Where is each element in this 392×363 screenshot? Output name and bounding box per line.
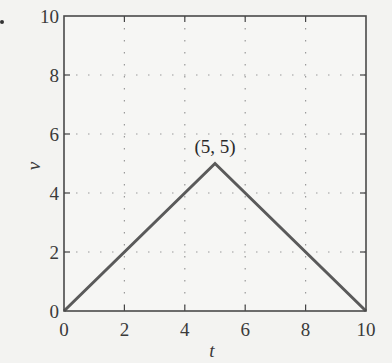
y-tick-label: 0 [50, 301, 60, 322]
y-tick-label: 6 [50, 124, 60, 145]
x-tick-label: 8 [301, 319, 311, 340]
y-tick-label: 4 [50, 183, 60, 204]
x-tick-label: 10 [357, 319, 376, 340]
y-tick-label: 8 [50, 65, 60, 86]
y-tick-label: 10 [40, 6, 59, 27]
x-tick-label: 2 [120, 319, 130, 340]
x-tick-label: 0 [59, 319, 69, 340]
x-tick-label: 6 [240, 319, 250, 340]
y-tick-label: 2 [50, 242, 60, 263]
peak-annotation: (5, 5) [194, 136, 235, 158]
bullet-dot [0, 20, 4, 24]
chart-canvas: (5, 5) 0 2 4 6 8 10 0 2 4 6 8 10 t v [0, 0, 392, 363]
x-axis-label: t [209, 340, 215, 361]
x-tick-label: 4 [180, 319, 190, 340]
y-axis-label: v [23, 161, 44, 170]
x-tick-labels: 0 2 4 6 8 10 [59, 319, 375, 340]
